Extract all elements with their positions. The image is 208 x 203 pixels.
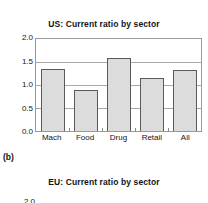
x-tick-mark (102, 128, 103, 132)
x-tick-label-mach: Mach (36, 134, 68, 142)
x-tick-label-drug: Drug (102, 134, 134, 142)
bar-food (74, 90, 98, 131)
bar-series (36, 39, 201, 131)
y-tick-label: 1.5 (7, 58, 33, 66)
x-tick-label-retail: Retail (136, 134, 168, 142)
y-tick-label: 0.0 (7, 128, 33, 136)
x-tick-label-all: All (169, 134, 201, 142)
y-axis-us: 2.0 1.5 1.0 0.5 0.0 (0, 38, 33, 132)
x-tick-label-food: Food (69, 134, 101, 142)
y-tick-label-eu-top: 2.0 (9, 197, 35, 203)
x-tick-mark (168, 128, 169, 132)
x-tick-mark (69, 128, 70, 132)
y-tick-label: 1.0 (7, 81, 33, 89)
panel-label-b: (b) (3, 152, 14, 162)
chart-panel-eu: EU: Current ratio by sector 2.0 (0, 176, 208, 203)
bar-retail (140, 78, 164, 131)
plot-area-us (35, 38, 202, 132)
bar-all (173, 70, 197, 131)
y-tick-label: 2.0 (7, 34, 33, 42)
y-tick-label: 0.5 (7, 105, 33, 113)
chart-title-eu: EU: Current ratio by sector (0, 177, 208, 187)
chart-title-us: US: Current ratio by sector (0, 19, 208, 29)
bar-mach (41, 69, 65, 131)
x-axis-us: Mach Food Drug Retail All (35, 134, 202, 148)
bar-drug (107, 58, 131, 131)
x-tick-mark (135, 128, 136, 132)
chart-panel-us: US: Current ratio by sector 2.0 1.5 1.0 … (0, 0, 208, 148)
figure-container: US: Current ratio by sector 2.0 1.5 1.0 … (0, 0, 208, 203)
